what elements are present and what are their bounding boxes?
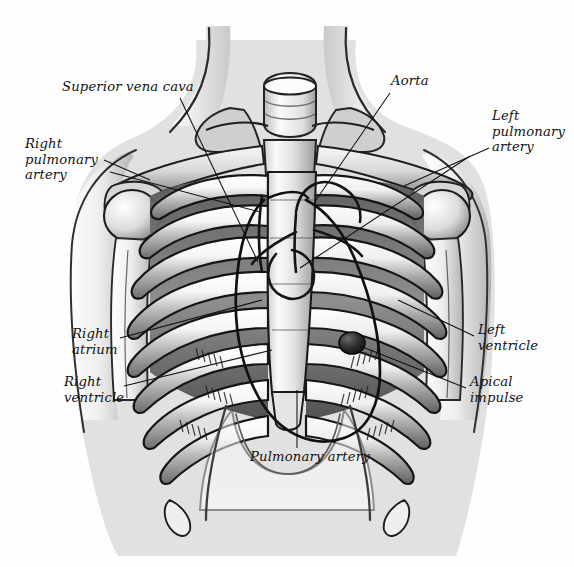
label-right-atrium: Right atrium — [72, 326, 118, 357]
label-apical-impulse: Apical impulse — [470, 374, 524, 405]
label-left-pulmonary-artery: Left pulmonary artery — [492, 108, 565, 155]
apical-impulse-dot — [339, 332, 365, 354]
label-left-ventricle: Left ventricle — [478, 322, 538, 353]
anatomy-figure: Superior vena cava Aorta Right pulmonary… — [0, 0, 574, 567]
label-right-pulmonary-artery: Right pulmonary artery — [25, 136, 98, 183]
xiphoid — [272, 392, 304, 430]
trachea — [264, 73, 316, 137]
label-pulmonary-artery: Pulmonary artery — [250, 449, 370, 465]
label-right-ventricle: Right ventricle — [64, 374, 124, 405]
label-aorta: Aorta — [391, 73, 429, 89]
label-superior-vena-cava: Superior vena cava — [62, 79, 194, 95]
